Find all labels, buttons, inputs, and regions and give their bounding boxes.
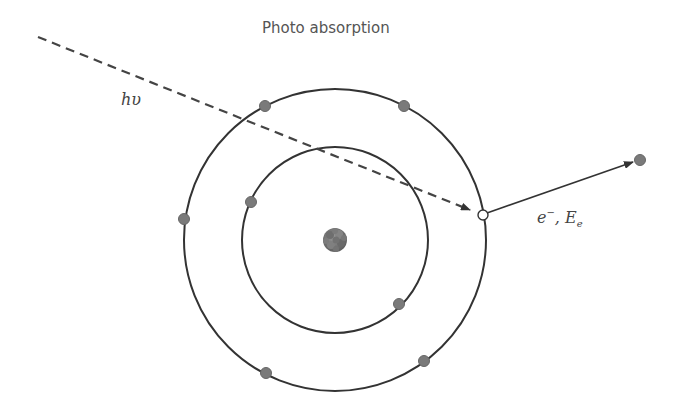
energy-subscript: e [577,218,583,229]
ejected-electron-path [487,162,633,213]
vacancy-icon [478,210,488,220]
nucleus-icon [323,228,347,252]
diagram-title: Photo absorption [262,19,442,37]
ejected-electron-icon [635,155,646,166]
electron-energy-label: e−, Ee [537,207,583,229]
electron-icon [394,299,405,310]
electron-icon [260,101,271,112]
energy-symbol: E [565,208,577,227]
electron-icon [419,356,430,367]
label-separator: , [555,208,565,227]
electron-icon [246,197,257,208]
electron-icon [261,368,272,379]
photo-absorption-diagram: Photo absorption hυ e−, Ee [0,0,679,399]
electron-icon [399,101,410,112]
electron-charge: − [546,207,554,218]
electron-icon [179,214,190,225]
incident-photon-path [38,37,470,210]
photon-energy-label: hυ [121,90,141,109]
atom-diagram-svg [0,0,679,399]
